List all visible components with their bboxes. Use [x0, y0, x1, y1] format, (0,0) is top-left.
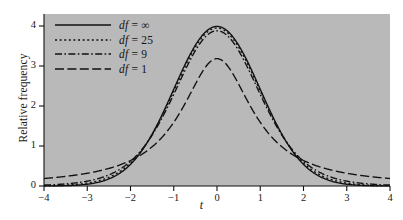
x-tick-label: 4: [378, 192, 402, 203]
y-tick-label: 3: [16, 59, 36, 70]
y-tick-label: 2: [16, 99, 36, 110]
t-distribution-figure: Relative frequency t 01234 −4−3−2−101234…: [0, 0, 403, 220]
legend-line-sample: [55, 19, 111, 31]
legend-df-value: = 9: [128, 48, 147, 60]
legend-item-label: df = 1: [119, 63, 147, 75]
legend-df-value: = 1: [128, 63, 147, 75]
y-axis-ticks: [39, 26, 44, 186]
legend-df-value: = 25: [128, 34, 153, 46]
legend-item-label: df = ∞: [119, 19, 150, 31]
x-tick-label: −2: [119, 192, 143, 203]
legend-item: df = 1: [55, 62, 153, 77]
legend-line-sample: [55, 63, 111, 75]
legend-line-sample: [55, 48, 111, 60]
x-tick-label: −1: [162, 192, 186, 203]
x-tick-label: 3: [335, 192, 359, 203]
x-tick-label: 0: [205, 192, 229, 203]
legend-df-symbol: df: [119, 19, 128, 31]
legend: df = ∞df = 25df = 9df = 1: [55, 18, 153, 76]
legend-item-label: df = 25: [119, 34, 153, 46]
x-tick-label: 2: [292, 192, 316, 203]
x-axis-ticks: [44, 186, 390, 191]
legend-df-symbol: df: [119, 63, 128, 75]
y-tick-label: 4: [16, 19, 36, 30]
x-tick-label: −3: [75, 192, 99, 203]
y-tick-label: 0: [16, 179, 36, 190]
legend-item: df = 9: [55, 47, 153, 62]
legend-item: df = 25: [55, 33, 153, 48]
legend-line-sample: [55, 34, 111, 46]
legend-item-label: df = 9: [119, 48, 147, 60]
x-tick-label: 1: [248, 192, 272, 203]
legend-item: df = ∞: [55, 18, 153, 33]
legend-df-symbol: df: [119, 48, 128, 60]
legend-df-symbol: df: [119, 34, 128, 46]
x-tick-label: −4: [32, 192, 56, 203]
y-tick-label: 1: [16, 139, 36, 150]
legend-df-value: = ∞: [128, 19, 149, 31]
